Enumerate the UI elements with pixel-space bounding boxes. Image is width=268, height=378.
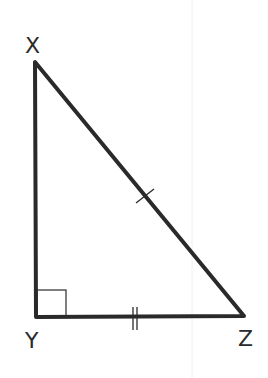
vertex-label-x: X	[25, 33, 40, 58]
triangle-figure: X Y Z	[0, 0, 268, 378]
right-angle-marker	[37, 290, 66, 317]
diagram-canvas: X Y Z	[0, 0, 268, 378]
vertex-label-z: Z	[238, 326, 253, 351]
triangle-xyz	[35, 62, 244, 317]
vertex-label-y: Y	[24, 328, 39, 353]
